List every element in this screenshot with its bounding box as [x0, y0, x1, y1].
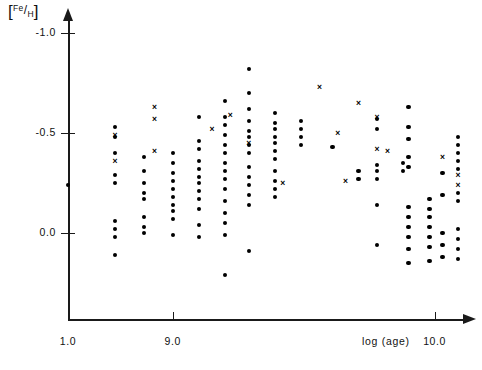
- data-point-dot: [401, 161, 405, 165]
- data-point-dot: [171, 187, 175, 191]
- data-point-dot: [113, 235, 117, 239]
- data-point-dot: [440, 255, 444, 259]
- data-point-dot: [223, 221, 227, 225]
- data-point-dot: [427, 225, 431, 229]
- y-tick-label: -0.5: [20, 126, 56, 138]
- data-point-dot: [223, 123, 227, 127]
- x-tick-mark: [435, 312, 436, 320]
- data-point-dot: [142, 169, 146, 173]
- data-point-cross: [316, 84, 323, 91]
- data-point-dot: [375, 177, 379, 181]
- data-point-cross: [455, 172, 462, 179]
- data-point-dot: [171, 171, 175, 175]
- data-point-dot: [197, 167, 201, 171]
- y-axis-label: [Fe/H]: [8, 2, 39, 22]
- data-point-dot: [197, 175, 201, 179]
- data-point-dot: [223, 133, 227, 137]
- data-point-dot: [440, 193, 444, 197]
- data-point-dot: [247, 151, 251, 155]
- data-point-dot: [171, 151, 175, 155]
- y-axis-line: [68, 20, 70, 320]
- scatter-plot-figure: [Fe/H] log (age) -1.0-0.50.01.09.010.0: [0, 0, 482, 370]
- data-point-dot: [406, 125, 410, 129]
- data-point-dot: [401, 169, 405, 173]
- data-point-dot: [456, 191, 460, 195]
- data-point-dot: [171, 203, 175, 207]
- data-point-dot: [247, 119, 251, 123]
- data-point-dot: [142, 191, 146, 195]
- data-point-dot: [197, 115, 201, 119]
- data-point-dot: [273, 111, 277, 115]
- data-point-dot: [113, 181, 117, 185]
- data-point-dot: [142, 225, 146, 229]
- data-point-dot: [247, 175, 251, 179]
- data-point-dot: [356, 169, 360, 173]
- data-point-dot: [440, 231, 444, 235]
- data-point-dot: [247, 249, 251, 253]
- data-point-cross: [112, 132, 119, 139]
- data-point-dot: [142, 181, 146, 185]
- data-point-dot: [197, 159, 201, 163]
- data-point-dot: [197, 147, 201, 151]
- data-point-dot: [171, 195, 175, 199]
- data-point-dot: [456, 257, 460, 261]
- data-point-dot: [427, 207, 431, 211]
- data-point-dot: [406, 105, 410, 109]
- data-point-dot: [273, 121, 277, 125]
- data-point-cross: [151, 148, 158, 155]
- data-point-dot: [113, 173, 117, 177]
- x-axis-arrow-icon: [463, 314, 476, 324]
- data-point-dot: [273, 157, 277, 161]
- data-point-dot: [273, 179, 277, 183]
- data-point-cross: [455, 182, 462, 189]
- data-point-dot: [330, 145, 334, 149]
- data-point-cross: [279, 180, 286, 187]
- data-point-dot: [223, 273, 227, 277]
- data-point-cross: [112, 158, 119, 165]
- data-point-dot: [406, 215, 410, 219]
- data-point-dot: [113, 219, 117, 223]
- data-point-dot: [247, 107, 251, 111]
- data-point-dot: [171, 233, 175, 237]
- data-point-dot: [456, 151, 460, 155]
- data-point-dot: [197, 223, 201, 227]
- data-point-dot: [223, 99, 227, 103]
- data-point-dot: [247, 203, 251, 207]
- data-point-dot: [456, 247, 460, 251]
- data-point-dot: [406, 235, 410, 239]
- data-point-dot: [273, 169, 277, 173]
- data-point-dot: [223, 211, 227, 215]
- data-point-dot: [440, 171, 444, 175]
- data-point-dot: [223, 143, 227, 147]
- data-point-dot: [171, 179, 175, 183]
- data-point-dot: [197, 197, 201, 201]
- data-point-dot: [247, 183, 251, 187]
- data-point-dot: [247, 165, 251, 169]
- data-point-dot: [223, 169, 227, 173]
- data-point-cross: [151, 116, 158, 123]
- data-point-dot: [247, 193, 251, 197]
- y-axis-arrow-icon: [63, 8, 73, 21]
- data-point-dot: [406, 247, 410, 251]
- data-point-cross: [439, 154, 446, 161]
- data-point-dot: [406, 261, 410, 265]
- data-point-cross: [209, 126, 216, 133]
- data-point-dot: [375, 203, 379, 207]
- data-point-dot: [273, 149, 277, 153]
- x-tick-label: 1.0: [50, 335, 86, 347]
- data-point-dot: [299, 119, 303, 123]
- data-point-dot: [299, 135, 303, 139]
- data-point-dot: [171, 217, 175, 221]
- data-point-dot: [456, 159, 460, 163]
- data-point-dot: [273, 135, 277, 139]
- data-point-dot: [375, 163, 379, 167]
- data-point-dot: [456, 135, 460, 139]
- data-point-dot: [273, 127, 277, 131]
- data-point-dot: [375, 127, 379, 131]
- data-point-dot: [113, 151, 117, 155]
- data-point-dot: [197, 207, 201, 211]
- data-point-cross: [342, 178, 349, 185]
- data-point-dot: [247, 129, 251, 133]
- data-point-dot: [375, 243, 379, 247]
- y-tick-mark: [61, 133, 75, 134]
